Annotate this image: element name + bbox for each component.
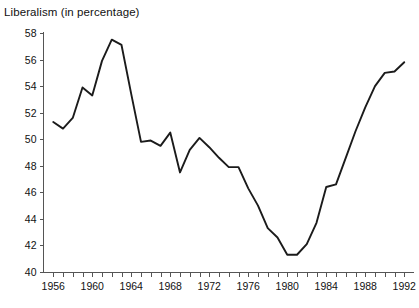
x-tick-label: 1968 bbox=[159, 280, 183, 292]
x-tick-label: 1988 bbox=[354, 280, 378, 292]
x-tick-label: 1980 bbox=[276, 280, 300, 292]
x-tick-label: 1992 bbox=[393, 280, 417, 292]
liberalism-series-line bbox=[53, 40, 404, 255]
x-tick-label: 1972 bbox=[198, 280, 222, 292]
y-tick-label: 52 bbox=[25, 107, 37, 119]
x-tick-label: 1956 bbox=[42, 280, 66, 292]
y-tick-label: 46 bbox=[25, 186, 37, 198]
y-tick-label: 54 bbox=[25, 80, 37, 92]
y-axis-ticks bbox=[40, 34, 44, 273]
y-tick-label: 50 bbox=[25, 133, 37, 145]
y-tick-label: 44 bbox=[25, 213, 37, 225]
y-tick-label: 48 bbox=[25, 160, 37, 172]
x-tick-label: 1960 bbox=[81, 280, 105, 292]
x-axis: 1956196019641968197219761980198419881992 bbox=[42, 273, 417, 293]
y-axis-tick-labels: 40424446485052545658 bbox=[25, 27, 37, 278]
liberalism-line-chart: Liberalism (in percentage) 4042444648505… bbox=[0, 0, 419, 308]
y-tick-label: 58 bbox=[25, 27, 37, 39]
x-axis-tick-labels: 1956196019641968197219761980198419881992 bbox=[42, 280, 417, 292]
y-axis: 40424446485052545658 bbox=[25, 27, 44, 278]
y-tick-label: 42 bbox=[25, 239, 37, 251]
x-tick-label: 1984 bbox=[315, 280, 339, 292]
y-tick-label: 56 bbox=[25, 54, 37, 66]
x-tick-label: 1976 bbox=[237, 280, 261, 292]
x-tick-label: 1964 bbox=[120, 280, 144, 292]
x-axis-minor-ticks bbox=[54, 273, 405, 277]
y-tick-label: 40 bbox=[25, 266, 37, 278]
chart-plot-area: 40424446485052545658 1956196019641968197… bbox=[0, 0, 419, 308]
